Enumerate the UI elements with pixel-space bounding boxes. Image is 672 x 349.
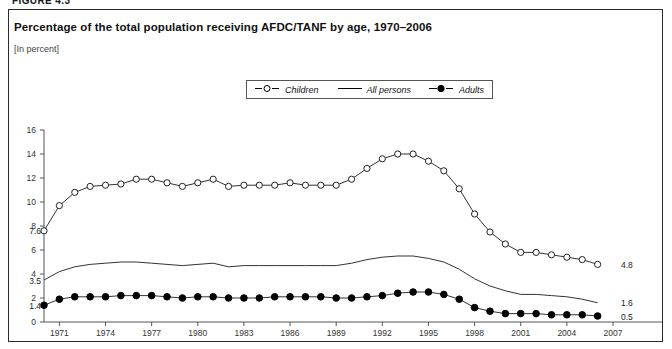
data-point-children	[533, 249, 539, 255]
data-point-children	[287, 180, 293, 186]
data-point-adults	[87, 294, 94, 301]
y-axis-tick-label: 10	[27, 197, 37, 207]
data-point-children	[471, 211, 477, 217]
data-point-adults	[287, 294, 294, 301]
data-point-adults	[302, 294, 309, 301]
data-point-adults	[210, 294, 217, 301]
data-point-adults	[56, 296, 63, 303]
data-point-adults	[441, 291, 448, 298]
x-axis-tick-label: 2001	[511, 328, 530, 338]
data-point-adults	[241, 295, 248, 302]
y-axis-tick-label: 0	[31, 317, 36, 327]
data-point-children	[41, 228, 47, 234]
x-axis-tick-label: 1974	[96, 328, 115, 338]
data-point-children	[379, 156, 385, 162]
data-point-adults	[594, 313, 601, 320]
x-axis-tick-label: 2004	[557, 328, 576, 338]
start-value-label: 3.5	[29, 276, 41, 286]
start-value-label: 7.6	[29, 226, 41, 236]
data-point-children	[195, 180, 201, 186]
data-point-children	[348, 176, 354, 182]
data-point-children	[595, 261, 601, 267]
x-axis: 1971197419771980198319861989199219951998…	[44, 322, 662, 338]
data-point-adults	[71, 294, 78, 301]
data-point-adults	[333, 295, 340, 302]
x-axis-tick-label: 1977	[142, 328, 161, 338]
data-point-children	[425, 158, 431, 164]
data-point-children	[518, 249, 524, 255]
data-point-adults	[487, 308, 494, 315]
data-point-children	[364, 165, 370, 171]
data-point-children	[564, 254, 570, 260]
data-point-children	[72, 189, 78, 195]
data-point-children	[502, 241, 508, 247]
data-point-children	[579, 257, 585, 263]
data-point-children	[225, 183, 231, 189]
y-axis-tick-label: 12	[27, 173, 37, 183]
data-point-children	[164, 180, 170, 186]
y-axis-tick-label: 14	[27, 149, 37, 159]
data-point-adults	[256, 295, 263, 302]
x-axis-tick-label: 1992	[373, 328, 392, 338]
data-point-adults	[225, 295, 232, 302]
data-point-adults	[471, 304, 478, 311]
data-point-children	[133, 176, 139, 182]
data-point-adults	[517, 310, 524, 317]
data-point-children	[149, 176, 155, 182]
data-point-adults	[102, 294, 109, 301]
data-point-adults	[194, 294, 201, 301]
data-point-children	[548, 252, 554, 258]
x-axis-tick-label: 1998	[465, 328, 484, 338]
data-point-adults	[164, 294, 171, 301]
data-point-adults	[318, 294, 325, 301]
x-axis-tick-label: 1986	[281, 328, 300, 338]
data-point-adults	[364, 294, 371, 301]
data-point-adults	[118, 292, 125, 299]
data-point-children	[333, 182, 339, 188]
data-point-children	[410, 151, 416, 157]
end-value-label: 1.6	[621, 298, 633, 308]
data-point-adults	[179, 295, 186, 302]
data-point-adults	[533, 310, 540, 317]
series-line-children	[44, 154, 598, 264]
data-point-children	[241, 182, 247, 188]
chart-plot-area: 0246810121416 19711974197719801983198619…	[0, 0, 672, 349]
data-point-children	[118, 181, 124, 187]
data-point-adults	[502, 310, 509, 317]
data-point-children	[256, 182, 262, 188]
data-point-children	[487, 229, 493, 235]
data-point-adults	[564, 312, 571, 319]
data-point-adults	[394, 290, 401, 297]
data-point-children	[441, 168, 447, 174]
end-value-label: 0.5	[621, 312, 633, 322]
data-point-adults	[579, 312, 586, 319]
x-axis-tick-label: 2007	[604, 328, 623, 338]
data-point-adults	[271, 294, 278, 301]
y-axis-tick-label: 6	[31, 245, 36, 255]
data-point-adults	[456, 296, 463, 303]
start-value-label: 1.4	[29, 301, 41, 311]
data-point-adults	[379, 292, 386, 299]
x-axis-tick-label: 1980	[188, 328, 207, 338]
data-point-children	[87, 183, 93, 189]
x-axis-tick-label: 1983	[234, 328, 253, 338]
data-point-children	[395, 151, 401, 157]
x-axis-tick-label: 1971	[50, 328, 69, 338]
data-point-children	[272, 182, 278, 188]
data-point-adults	[133, 292, 140, 299]
data-point-adults	[148, 292, 155, 299]
data-point-adults	[348, 295, 355, 302]
data-point-adults	[410, 289, 417, 296]
data-point-children	[302, 182, 308, 188]
data-point-children	[56, 203, 62, 209]
y-axis-tick-label: 16	[27, 125, 37, 135]
data-point-children	[210, 176, 216, 182]
data-point-children	[318, 182, 324, 188]
data-series-group	[41, 151, 601, 319]
data-point-children	[179, 183, 185, 189]
data-point-adults	[41, 302, 48, 309]
data-point-adults	[548, 312, 555, 319]
data-point-adults	[425, 289, 432, 296]
data-point-children	[102, 182, 108, 188]
end-value-label: 4.8	[621, 260, 633, 270]
